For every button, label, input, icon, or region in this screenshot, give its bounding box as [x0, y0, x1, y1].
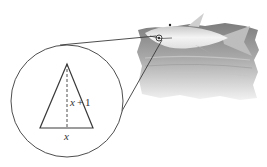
shark-eye [169, 24, 171, 26]
shark-dorsal-fin [188, 13, 204, 27]
base-label: x [63, 130, 69, 142]
height-label: x+1 [69, 96, 91, 108]
diagram-canvas: x+1 x [0, 0, 267, 167]
